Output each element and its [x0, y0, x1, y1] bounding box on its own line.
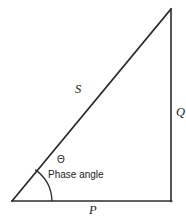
- phase-angle-diagram: S Q P Θ Phase angle: [0, 0, 186, 222]
- vertical-side-label-q: Q: [176, 106, 185, 119]
- phase-angle-caption: Phase angle: [48, 170, 104, 180]
- triangle-graphic: [0, 0, 186, 222]
- horizontal-side-label-p: P: [89, 204, 97, 217]
- hypotenuse-label-s: S: [75, 83, 81, 96]
- theta-symbol: Θ: [57, 155, 65, 165]
